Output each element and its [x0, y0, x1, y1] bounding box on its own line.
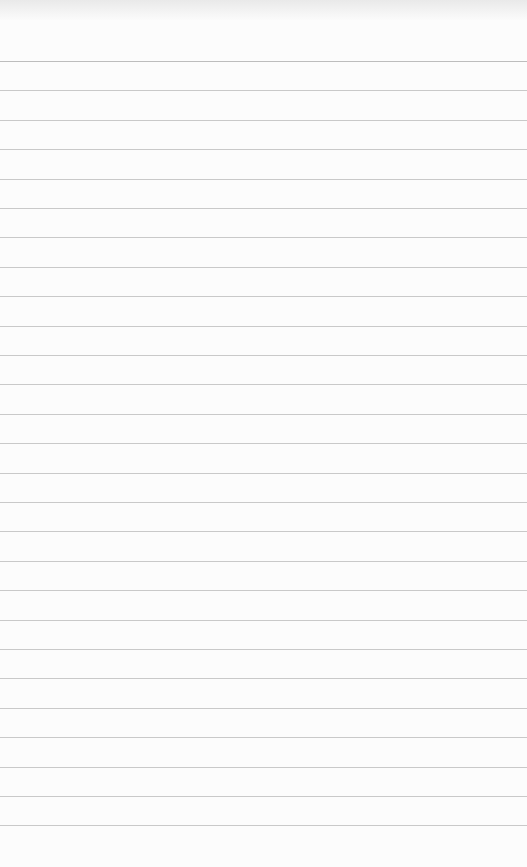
- ruled-line: [0, 620, 527, 621]
- ruled-line: [0, 355, 527, 356]
- ruled-line: [0, 473, 527, 474]
- ruled-line: [0, 708, 527, 709]
- ruled-line: [0, 502, 527, 503]
- ruled-line: [0, 237, 527, 238]
- ruled-line: [0, 561, 527, 562]
- ruled-line: [0, 767, 527, 768]
- ruled-line: [0, 414, 527, 415]
- ruled-line: [0, 443, 527, 444]
- ruled-line: [0, 179, 527, 180]
- ruled-line: [0, 737, 527, 738]
- ruled-line: [0, 90, 527, 91]
- ruled-line: [0, 384, 527, 385]
- ruled-line: [0, 267, 527, 268]
- ruled-line: [0, 208, 527, 209]
- ruled-line: [0, 296, 527, 297]
- lined-notepad-page: [0, 0, 527, 867]
- ruled-line: [0, 590, 527, 591]
- ruled-line: [0, 61, 527, 62]
- ruled-line: [0, 120, 527, 121]
- notepad-top-binding: [0, 0, 527, 20]
- ruled-line: [0, 649, 527, 650]
- ruled-line: [0, 796, 527, 797]
- ruled-line: [0, 149, 527, 150]
- ruled-line: [0, 531, 527, 532]
- ruled-line: [0, 825, 527, 826]
- ruled-line: [0, 326, 527, 327]
- ruled-line: [0, 678, 527, 679]
